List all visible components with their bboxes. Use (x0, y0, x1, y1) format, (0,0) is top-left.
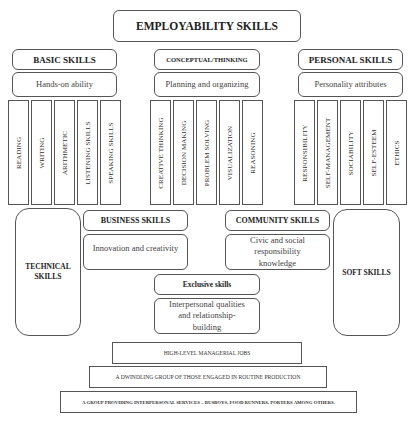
business-skills-header: BUSINESS SKILLS (83, 210, 188, 231)
soft-skills-box: SOFT SKILLS (333, 209, 400, 336)
skill-column-problem-solving: PROBLEM SOLVING (196, 100, 217, 205)
diagram-title: EMPLOYABILITY SKILLS (136, 20, 278, 32)
skill-column-speaking: SPEAKING SKILLS (100, 100, 121, 205)
conceptual-thinking-description: Planning and organizing (154, 72, 260, 97)
tier-high-level-managerial: HIGH-LEVEL MANAGERIAL JOBS (112, 342, 302, 364)
skill-column-ethics: ETHICS (386, 100, 407, 205)
skill-column-self-esteem: SELF-ESTEEM (363, 100, 384, 205)
exclusive-skills-description: Interpersonal qualities and relationship… (154, 298, 260, 334)
skill-column-self-management: SELF-MANAGEMENT (317, 100, 338, 205)
business-skills-description: Innovation and creativity (83, 234, 188, 270)
basic-skills-header: BASIC SKILLS (12, 49, 117, 70)
technical-skills-box: TECHNICAL SKILLS (15, 208, 81, 336)
tier-routine-production: A DWINDLING GROUP OF THOSE ENGAGED IN RO… (89, 366, 327, 388)
community-skills-description: Civic and social responsibility knowledg… (225, 234, 330, 270)
skill-column-reading: READING (8, 100, 29, 205)
skill-column-visualization: VISUALIZATION (219, 100, 240, 205)
conceptual-thinking-header: CONCEPTUAL/THINKING (154, 49, 260, 70)
title-box: EMPLOYABILITY SKILLS (113, 10, 301, 42)
basic-skills-description: Hands-on ability (12, 72, 117, 97)
personal-skills-header: PERSONAL SKILLS (298, 49, 403, 70)
skill-column-reasoning: REASONING (242, 100, 263, 205)
skill-column-sociability: SOCIABILITY (340, 100, 361, 205)
skill-column-decision-making: DECISION MAKING (173, 100, 194, 205)
personal-skills-description: Personality attributes (298, 72, 403, 97)
community-skills-header: COMMUNITY SKILLS (225, 210, 330, 231)
exclusive-skills-header: Exclusive skills (154, 274, 260, 295)
skill-column-arithmetic: ARITHMETIC (54, 100, 75, 205)
skill-column-listening: LISTENING SKILLS (77, 100, 98, 205)
skill-column-writing: WRITING (31, 100, 52, 205)
tier-interpersonal-services: A GROUP PROVIDING INTERPERSONAL SERVICES… (60, 391, 357, 413)
skill-column-creative-thinking: CREATIVE THINKING (150, 100, 171, 205)
skill-column-responsibility: RESPONSIBILITY (294, 100, 315, 205)
